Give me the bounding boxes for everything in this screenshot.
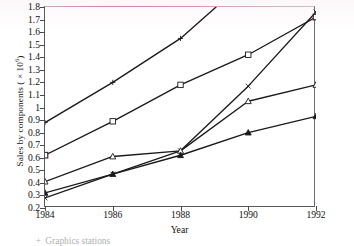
y-axis-tick-label: 0.7 bbox=[28, 140, 40, 150]
series-plus bbox=[45, 7, 216, 125]
y-axis-tick-label: 1.3 bbox=[28, 65, 40, 75]
y-axis-title-text: Sales by components ( × 10 bbox=[15, 62, 25, 167]
y-axis-tick bbox=[40, 120, 45, 121]
x-axis-tick-label: 1984 bbox=[35, 210, 54, 220]
x-axis-tick-label: 1986 bbox=[103, 210, 122, 220]
y-axis-tick bbox=[40, 70, 45, 71]
y-axis-title-exponent: 6 bbox=[13, 59, 20, 62]
legend-marker-plus-icon: + bbox=[34, 236, 43, 246]
y-axis-tick bbox=[40, 7, 45, 8]
plot-area: 0.20.30.40.50.60.70.80.911.11.21.31.41.5… bbox=[44, 6, 315, 207]
x-axis-tick-label: 1992 bbox=[306, 210, 325, 220]
plot-svg bbox=[45, 7, 316, 208]
x-axis-title: Year bbox=[44, 224, 315, 235]
x-axis-tick-label: 1990 bbox=[239, 210, 258, 220]
y-axis-tick bbox=[40, 45, 45, 46]
y-axis-tick-label: 1.8 bbox=[28, 2, 40, 12]
y-axis-tick-label: 1.7 bbox=[28, 15, 40, 25]
y-axis-tick-label: 0.8 bbox=[28, 128, 40, 138]
y-axis-title-tail: ) bbox=[15, 56, 25, 59]
y-axis-tick-label: 0.3 bbox=[28, 191, 40, 201]
legend-label-graphics-stations: Graphics stations bbox=[45, 236, 110, 246]
y-axis-tick-label: 0.5 bbox=[28, 166, 40, 176]
y-axis-tick-label: 1 bbox=[35, 103, 40, 113]
x-axis-tick-label: 1988 bbox=[171, 210, 190, 220]
y-axis-tick bbox=[40, 57, 45, 58]
y-axis-tick-label: 1.5 bbox=[28, 40, 40, 50]
y-axis-tick bbox=[40, 82, 45, 83]
y-axis-tick bbox=[40, 133, 45, 134]
y-axis-tick bbox=[40, 183, 45, 184]
y-axis-tick-label: 1.4 bbox=[28, 52, 40, 62]
y-axis-tick-label: 1.6 bbox=[28, 27, 40, 37]
y-axis-tick bbox=[40, 95, 45, 96]
y-axis-tick bbox=[40, 158, 45, 159]
y-axis-tick bbox=[40, 195, 45, 196]
y-axis-title: Sales by components ( × 106) bbox=[13, 18, 25, 204]
y-axis-tick-label: 0.6 bbox=[28, 153, 40, 163]
chart-legend: + Graphics stations bbox=[34, 236, 110, 246]
y-axis-tick bbox=[40, 20, 45, 21]
y-axis-tick-label: 0.4 bbox=[28, 178, 40, 188]
y-axis-tick bbox=[40, 170, 45, 171]
y-axis-tick bbox=[40, 145, 45, 146]
y-axis-tick bbox=[40, 32, 45, 33]
y-axis-tick-label: 1.1 bbox=[28, 90, 40, 100]
y-axis-tick bbox=[40, 108, 45, 109]
y-axis-tick-label: 0.9 bbox=[28, 115, 40, 125]
series-triangle-open bbox=[45, 82, 316, 184]
y-axis-tick-label: 1.2 bbox=[28, 78, 40, 88]
